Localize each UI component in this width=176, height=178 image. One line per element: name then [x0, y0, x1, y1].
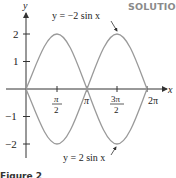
figure-root: SOLUTION y	[0, 0, 176, 178]
pointer-top	[111, 21, 117, 31]
x-axis-label: x	[167, 84, 173, 95]
label-2sinx: y = 2 sin x	[63, 152, 105, 163]
x-tick-pi: π	[84, 95, 90, 106]
x-tick-pi2-den: 2	[54, 105, 59, 115]
y-axis-label: y	[22, 0, 28, 11]
y-tick-m1: −1	[5, 110, 17, 122]
y-tick-2: 2	[13, 28, 19, 40]
figure-caption: Figure 2	[0, 171, 42, 178]
y-tick-m2: −2	[5, 138, 17, 150]
x-tick-pi2-num: π	[54, 94, 59, 104]
sine-chart: y x 2 1 −1 −2 π 2 π 3π 2 2π y = −2 sin x…	[0, 0, 176, 178]
label-neg-2sinx: y = −2 sin x	[52, 10, 100, 21]
x-tick-3pi2-num: 3π	[111, 94, 121, 104]
x-tick-2pi: 2π	[148, 95, 158, 106]
pointer-bottom	[111, 147, 116, 155]
x-tick-3pi2-den: 2	[114, 105, 119, 115]
y-tick-1: 1	[13, 55, 19, 67]
